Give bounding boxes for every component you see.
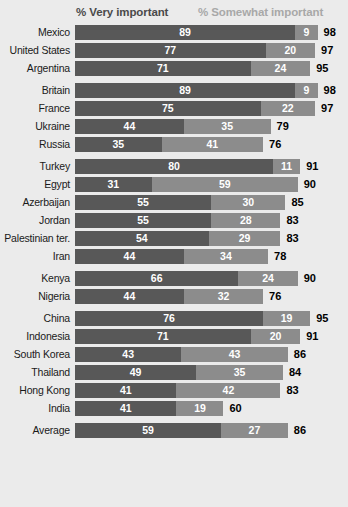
bar-segment-somewhat-important[interactable]: 28 [211,213,280,228]
row-label: Indonesia [0,329,70,344]
bar-segment-somewhat-important[interactable]: 59 [152,177,298,192]
chart-row[interactable]: Britain89998 [0,83,348,98]
bar-area: 761995 [75,311,348,326]
bar-segment-very-important[interactable]: 75 [75,101,261,116]
row-label: Palestinian ter. [0,231,70,246]
row-total-value: 83 [286,213,298,228]
bar-segment-somewhat-important[interactable]: 20 [251,329,301,344]
stacked-bar-chart: % Very important % Somewhat important Me… [0,0,348,507]
bar-segment-somewhat-important[interactable]: 27 [221,423,288,438]
bar-segment-very-important[interactable]: 89 [75,25,295,40]
bar-segment-very-important[interactable]: 55 [75,195,211,210]
bar-segment-very-important[interactable]: 44 [75,119,184,134]
chart-row[interactable]: Iran443478 [0,249,348,264]
row-total-value: 83 [286,383,298,398]
row-label: Jordan [0,213,70,228]
bar-segment-somewhat-important[interactable]: 34 [184,249,268,264]
bar-segment-somewhat-important[interactable]: 19 [176,401,223,416]
bar-segment-very-important[interactable]: 41 [75,401,176,416]
bar-segment-very-important[interactable]: 49 [75,365,196,380]
chart-legend: % Very important % Somewhat important [0,6,348,24]
chart-row[interactable]: South Korea434386 [0,347,348,362]
bar-segment-very-important[interactable]: 80 [75,159,273,174]
bar-segment-somewhat-important[interactable]: 19 [263,311,310,326]
row-total-value: 95 [316,311,328,326]
chart-row[interactable]: Kenya662490 [0,271,348,286]
bar-segment-somewhat-important[interactable]: 11 [273,159,300,174]
bar-segment-somewhat-important[interactable]: 35 [196,365,283,380]
bar-group-europe: Britain89998France752297Ukraine443579Rus… [0,83,348,152]
bar-segment-very-important[interactable]: 71 [75,61,251,76]
bar-segment-somewhat-important[interactable]: 29 [209,231,281,246]
bar-segment-somewhat-important[interactable]: 42 [176,383,280,398]
chart-rows: Mexico89998United States772097Argentina7… [0,25,348,438]
bar-area: 443478 [75,249,348,264]
row-label: Hong Kong [0,383,70,398]
bar-segment-somewhat-important[interactable]: 20 [266,43,316,58]
bar-segment-somewhat-important[interactable]: 9 [295,25,317,40]
bar-segment-somewhat-important[interactable]: 24 [251,61,310,76]
row-total-value: 79 [277,119,289,134]
bar-area: 662490 [75,271,348,286]
bar-segment-very-important[interactable]: 66 [75,271,238,286]
bar-area: 89998 [75,83,348,98]
chart-row[interactable]: Thailand493584 [0,365,348,380]
bar-segment-very-important[interactable]: 31 [75,177,152,192]
bar-area: 443276 [75,289,348,304]
row-total-value: 95 [316,61,328,76]
row-total-value: 86 [294,347,306,362]
bar-segment-very-important[interactable]: 71 [75,329,251,344]
chart-row[interactable]: China761995 [0,311,348,326]
chart-row[interactable]: Hong Kong414283 [0,383,348,398]
bar-segment-somewhat-important[interactable]: 35 [184,119,271,134]
bar-segment-very-important[interactable]: 77 [75,43,266,58]
bar-segment-very-important[interactable]: 59 [75,423,221,438]
row-total-value: 97 [321,101,333,116]
bar-area: 752297 [75,101,348,116]
bar-segment-somewhat-important[interactable]: 30 [211,195,285,210]
chart-row[interactable]: Ukraine443579 [0,119,348,134]
bar-area: 315990 [75,177,348,192]
bar-group-middle-east: Turkey801191Egypt315990Azerbaijan553085J… [0,159,348,264]
chart-row[interactable]: Jordan552883 [0,213,348,228]
chart-row[interactable]: Egypt315990 [0,177,348,192]
chart-row[interactable]: Argentina712495 [0,61,348,76]
row-label: Iran [0,249,70,264]
chart-row[interactable]: Russia354176 [0,137,348,152]
bar-segment-very-important[interactable]: 76 [75,311,263,326]
chart-row[interactable]: Indonesia712091 [0,329,348,344]
bar-segment-somewhat-important[interactable]: 41 [162,137,263,152]
bar-segment-somewhat-important[interactable]: 9 [295,83,317,98]
bar-segment-very-important[interactable]: 41 [75,383,176,398]
bar-segment-very-important[interactable]: 89 [75,83,295,98]
row-total-value: 76 [269,137,281,152]
row-label: United States [0,43,70,58]
row-label: Britain [0,83,70,98]
row-label: France [0,101,70,116]
chart-row[interactable]: Average592786 [0,423,348,438]
row-label: Kenya [0,271,70,286]
bar-segment-very-important[interactable]: 35 [75,137,162,152]
chart-row[interactable]: France752297 [0,101,348,116]
bar-segment-somewhat-important[interactable]: 22 [261,101,315,116]
bar-group-africa: Kenya662490Nigeria443276 [0,271,348,304]
bar-segment-very-important[interactable]: 54 [75,231,209,246]
bar-segment-somewhat-important[interactable]: 32 [184,289,263,304]
bar-segment-very-important[interactable]: 43 [75,347,181,362]
chart-row[interactable]: Palestinian ter.542983 [0,231,348,246]
bar-segment-somewhat-important[interactable]: 43 [181,347,287,362]
chart-row[interactable]: Nigeria443276 [0,289,348,304]
chart-row[interactable]: Azerbaijan553085 [0,195,348,210]
bar-area: 592786 [75,423,348,438]
row-total-value: 86 [294,423,306,438]
bar-segment-very-important[interactable]: 44 [75,289,184,304]
bar-segment-very-important[interactable]: 44 [75,249,184,264]
bar-area: 493584 [75,365,348,380]
bar-segment-very-important[interactable]: 55 [75,213,211,228]
chart-row[interactable]: India411960 [0,401,348,416]
bar-segment-somewhat-important[interactable]: 24 [238,271,297,286]
chart-row[interactable]: United States772097 [0,43,348,58]
chart-row[interactable]: Mexico89998 [0,25,348,40]
chart-row[interactable]: Turkey801191 [0,159,348,174]
row-label: India [0,401,70,416]
